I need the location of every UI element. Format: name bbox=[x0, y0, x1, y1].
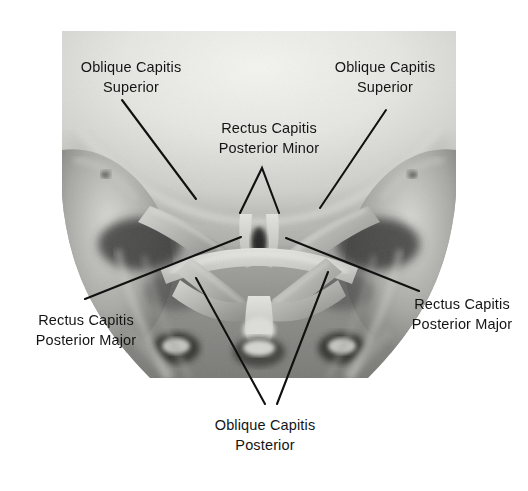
figure-canvas bbox=[0, 0, 528, 491]
anatomy-photograph bbox=[62, 31, 456, 378]
anatomical-figure: Oblique Capitis Superior Oblique Capitis… bbox=[0, 0, 528, 491]
